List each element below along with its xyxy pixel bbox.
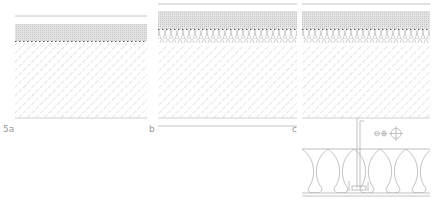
screed-layer: [302, 11, 430, 29]
service-symbols: [374, 126, 403, 141]
screed-layer: [15, 24, 147, 41]
panel-a: [15, 16, 147, 118]
panel-label-a: 5a: [3, 125, 14, 134]
screed-layer: [158, 11, 297, 29]
impact-insulation: [158, 30, 297, 43]
concrete-slab: [302, 45, 430, 118]
concrete-slab: [15, 43, 147, 118]
panel-label-c: c: [292, 125, 297, 134]
panel-c: [302, 4, 430, 196]
impact-insulation: [302, 30, 430, 43]
panel-b: [158, 4, 297, 126]
suspended-insulation: [302, 149, 430, 193]
panel-label-b: b: [149, 125, 155, 134]
concrete-slab: [158, 45, 297, 118]
section-drawing: [0, 0, 438, 199]
